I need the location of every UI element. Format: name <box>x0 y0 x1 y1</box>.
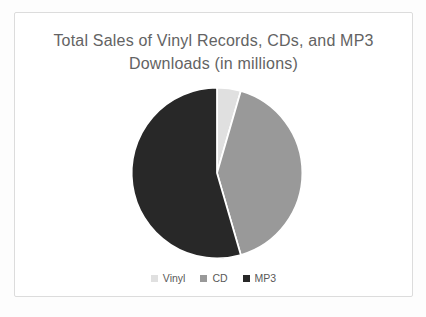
chart-title: Total Sales of Vinyl Records, CDs, and M… <box>41 29 386 75</box>
legend-marker-vinyl <box>151 275 158 282</box>
legend: Vinyl CD MP3 <box>15 272 412 284</box>
legend-label-cd: CD <box>212 272 227 284</box>
pie-chart <box>129 85 305 261</box>
legend-item-cd: CD <box>200 272 227 284</box>
legend-marker-mp3 <box>243 275 250 282</box>
legend-item-vinyl: Vinyl <box>151 272 186 284</box>
chart-frame: Total Sales of Vinyl Records, CDs, and M… <box>14 12 413 297</box>
legend-label-vinyl: Vinyl <box>163 272 186 284</box>
pie-svg <box>129 85 305 261</box>
legend-marker-cd <box>200 275 207 282</box>
legend-item-mp3: MP3 <box>243 272 277 284</box>
legend-label-mp3: MP3 <box>255 272 277 284</box>
